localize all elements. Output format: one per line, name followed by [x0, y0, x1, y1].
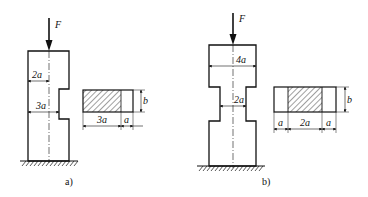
force-label-a: F: [54, 19, 62, 30]
bar-body-b: [209, 45, 256, 166]
cross-section-a: b 3a a: [83, 90, 148, 130]
ground-support-a: [20, 161, 78, 166]
svg-text:2a: 2a: [300, 117, 310, 128]
svg-text:3a: 3a: [96, 114, 107, 125]
caption-a: a): [65, 176, 73, 188]
caption-b: b): [262, 176, 270, 188]
ground-support-b: [197, 166, 265, 171]
force-arrow-a: F: [46, 18, 63, 51]
figure-a: F 2a 3a a) b: [20, 18, 148, 188]
cross-section-height-label-b: b: [347, 94, 352, 105]
bar-body-a: [28, 51, 69, 161]
svg-text:3a: 3a: [35, 100, 46, 111]
svg-text:4a: 4a: [236, 54, 246, 65]
svg-text:2a: 2a: [32, 69, 42, 80]
force-arrow-b: F: [230, 13, 247, 45]
cross-section-height-label-a: b: [143, 95, 148, 106]
diagram-canvas: F 2a 3a a) b: [0, 0, 368, 197]
force-label-b: F: [238, 13, 246, 24]
dimension-4a-b: 4a: [209, 54, 256, 66]
dimension-2a-a: 2a: [28, 69, 49, 81]
dimension-3a-a: 3a: [28, 100, 59, 112]
svg-text:a: a: [326, 117, 331, 128]
svg-text:2a: 2a: [234, 94, 244, 105]
cross-section-b: b a 2a a: [274, 87, 352, 133]
svg-text:a: a: [124, 114, 129, 125]
svg-text:a: a: [278, 117, 283, 128]
figure-b: F 4a 2a b) b: [197, 13, 352, 188]
